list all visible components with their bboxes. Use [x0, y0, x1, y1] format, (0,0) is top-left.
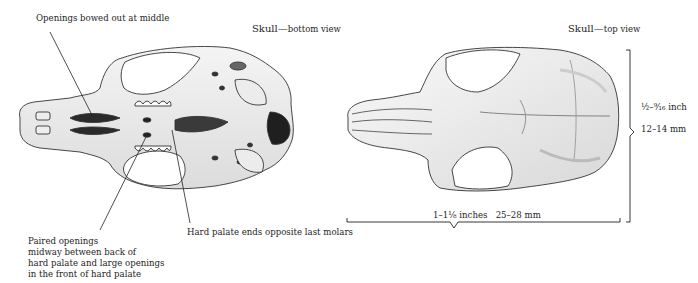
label-paired-openings: Paired openings midway between back of h…: [28, 236, 164, 280]
bottom-view-title: Skull—bottom view: [252, 23, 341, 34]
label-hard-palate: Hard palate ends opposite last molars: [187, 227, 353, 238]
top-view-title-dash: —: [594, 23, 604, 34]
top-view-title: Skull—top view: [568, 23, 640, 34]
bottom-view-title-main: Skull: [252, 23, 278, 34]
dimension-length-mm: 25–28 mm: [496, 210, 541, 220]
dimension-length-inch: 1–1⅛ inches: [433, 210, 487, 220]
label-openings-bowed: Openings bowed out at middle: [36, 13, 169, 24]
skull-top-view: [347, 47, 634, 228]
paired-openings-line-1: Paired openings: [28, 236, 164, 247]
dimension-width-mm: 12–14 mm: [641, 124, 686, 135]
top-view-title-main: Skull: [568, 23, 594, 34]
dimension-length: 1–1⅛ inches 25–28 mm: [433, 210, 541, 221]
bottom-view-title-dash: —: [278, 23, 288, 34]
dimension-width-inch: ½–⁹⁄₁₆ inch: [641, 102, 687, 113]
paired-openings-line-2: midway between back of: [28, 247, 164, 258]
paired-openings-line-3: hard palate and large openings: [28, 258, 164, 269]
top-view-title-sub: top view: [604, 24, 641, 34]
paired-openings-line-4: in the front of hard palate: [28, 269, 164, 280]
bottom-view-title-sub: bottom view: [288, 24, 341, 34]
skull-bottom-view: [20, 32, 294, 230]
